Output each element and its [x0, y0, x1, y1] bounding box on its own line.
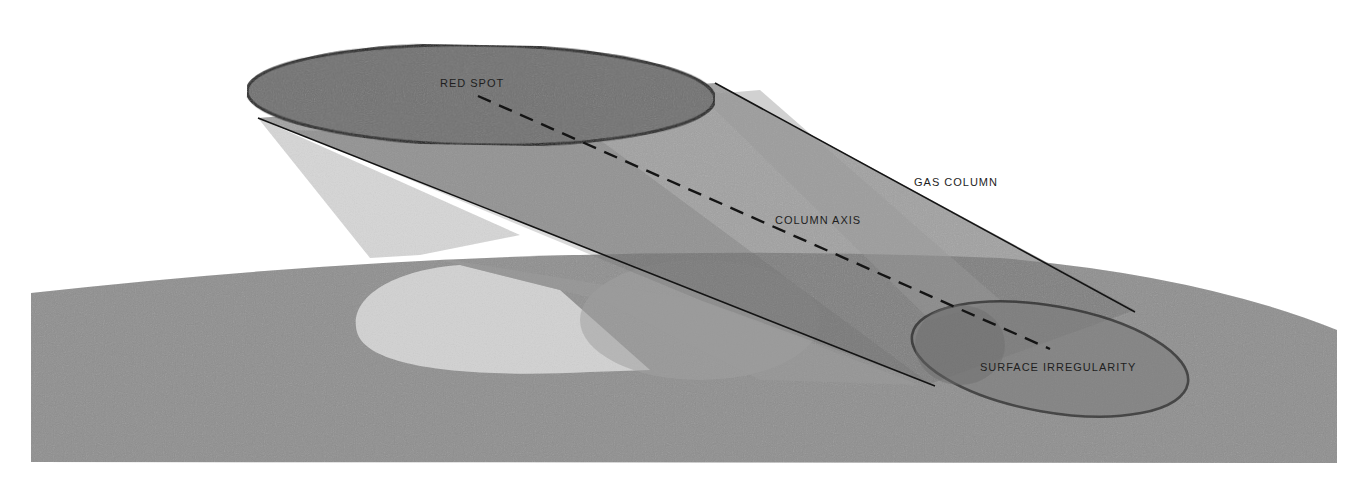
gas-column-label: GAS COLUMN [914, 177, 998, 188]
red-spot-label: RED SPOT [440, 78, 504, 89]
surface-irregularity-label: SURFACE IRREGULARITY [980, 362, 1136, 373]
surface-irregularity-dark-patch [915, 305, 1005, 385]
column-axis-label: COLUMN AXIS [775, 215, 861, 226]
gas-column-diagram [0, 0, 1365, 484]
